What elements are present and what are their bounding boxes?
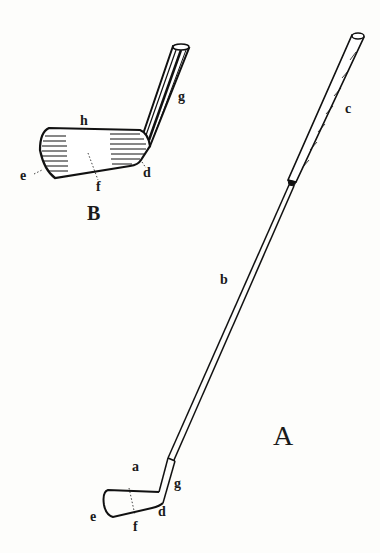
label-b-d: d [143, 166, 151, 180]
club-head-b [34, 44, 189, 180]
view-label-b: B [87, 203, 100, 223]
label-b-h: h [80, 114, 88, 128]
label-a-g: g [174, 477, 181, 491]
golf-club-diagram [0, 0, 380, 553]
label-a-f: f [133, 520, 138, 534]
label-b-e: e [20, 169, 26, 183]
label-a-a: a [132, 460, 139, 474]
view-label-a: A [273, 422, 293, 450]
label-a-d: d [158, 505, 166, 519]
label-b-f: f [96, 180, 101, 194]
label-a-e: e [90, 510, 96, 524]
label-b-g: g [178, 90, 185, 104]
club-a [104, 33, 365, 517]
label-a-c: c [345, 102, 351, 116]
label-a-b: b [220, 273, 228, 287]
